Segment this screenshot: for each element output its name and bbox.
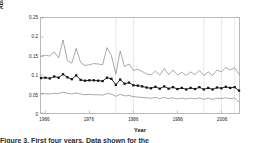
series-marker [123, 83, 125, 85]
series-marker [233, 86, 235, 88]
series-marker [62, 73, 64, 75]
series-marker [225, 86, 227, 88]
y-axis-tick-label: 0.1 [4, 73, 38, 78]
series-marker [79, 79, 81, 81]
plot-area [40, 17, 240, 114]
series-marker [167, 88, 169, 90]
x-axis-tick-label: 1976 [84, 117, 94, 122]
series-marker [128, 81, 130, 83]
series-marker [44, 77, 46, 79]
series-marker [93, 79, 95, 81]
series-marker [66, 76, 68, 78]
y-axis-tick-labels: 00.050.10.150.20.25 [0, 0, 38, 143]
series-marker [119, 78, 121, 80]
series-marker [132, 84, 134, 86]
series-marker [137, 85, 139, 87]
series-marker [75, 74, 77, 76]
series-marker [216, 86, 218, 88]
series-marker [110, 78, 112, 80]
series-marker [207, 87, 209, 89]
series-marker [185, 88, 187, 90]
series-marker [71, 78, 73, 80]
series-marker [40, 77, 42, 79]
x-axis-tick-label: 1966 [39, 117, 49, 122]
series-marker [159, 88, 161, 90]
series-marker [220, 87, 222, 89]
series-marker [172, 86, 174, 88]
series-marker [198, 86, 200, 88]
series-marker [106, 77, 108, 79]
series-marker [101, 80, 103, 82]
series-marker [194, 88, 196, 90]
series-marker [115, 84, 117, 86]
series-marker [97, 80, 99, 82]
x-axis-tick-label: 1986 [128, 117, 138, 122]
series-marker [229, 87, 231, 89]
x-axis-tick-label: 1996 [173, 117, 183, 122]
series-marker [163, 85, 165, 87]
series-marker [53, 75, 55, 77]
series-line-2 [41, 92, 239, 102]
y-axis-tick-label: 0.15 [4, 53, 38, 58]
series-marker [176, 88, 178, 90]
series-marker [57, 77, 59, 79]
y-axis-tick-label: 0.25 [4, 15, 38, 20]
caption-sliver: Figure 3. First four years. Data shown f… [0, 137, 253, 143]
y-axis-tick-label: 0.2 [4, 34, 38, 39]
y-axis-tick-label: 0.05 [4, 92, 38, 97]
x-axis-title: Year [40, 127, 240, 133]
series-marker [203, 88, 205, 90]
y-axis-tick-label: 0 [4, 112, 38, 117]
series-marker [238, 89, 240, 91]
figure-abundance-index: Abundance index 00.050.10.150.20.25 Year… [0, 0, 253, 143]
series-marker [84, 80, 86, 82]
series-marker [150, 87, 152, 89]
series-marker [49, 77, 51, 79]
series-marker [154, 86, 156, 88]
series-marker [211, 88, 213, 90]
series-marker [145, 86, 147, 88]
x-axis-tick-label: 2006 [217, 117, 227, 122]
series-marker [181, 87, 183, 89]
series-marker [141, 85, 143, 87]
chart-canvas [41, 18, 239, 113]
series-marker [189, 87, 191, 89]
series-line-0 [41, 40, 239, 75]
series-marker [88, 79, 90, 81]
